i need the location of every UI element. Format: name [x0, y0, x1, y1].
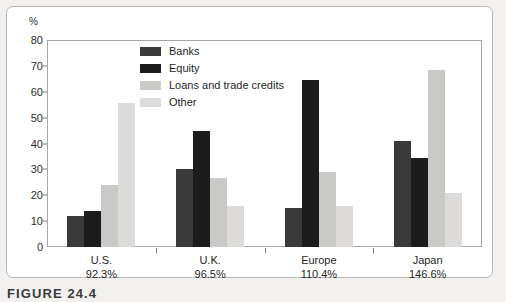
figure-page: % 01020304050607080 U.S.92.3%U.K.96.5%Eu…	[0, 0, 506, 302]
legend-swatch	[140, 81, 161, 90]
x-axis-group-label: U.K.96.5%	[156, 253, 265, 281]
x-axis-group-value: 146.6%	[373, 267, 482, 281]
bar-us-other	[118, 103, 135, 247]
legend-label: Banks	[169, 45, 200, 57]
legend-item: Banks	[140, 44, 320, 58]
legend-label: Loans and trade credits	[169, 79, 284, 91]
x-axis-group-value: 92.3%	[47, 267, 156, 281]
bar-europe-other	[336, 206, 353, 247]
bar-us-banks	[67, 216, 84, 247]
bar-japan-banks	[394, 141, 411, 247]
legend-item: Loans and trade credits	[140, 78, 320, 92]
bar-uk-banks	[176, 169, 193, 247]
bar-japan-loans	[428, 70, 445, 247]
bar-us-equity	[84, 211, 101, 247]
y-axis-tick-label: 20	[9, 189, 43, 201]
legend-swatch	[140, 98, 161, 107]
y-axis-tick-label: 30	[9, 163, 43, 175]
y-axis-tick-label: 50	[9, 112, 43, 124]
legend-item: Equity	[140, 61, 320, 75]
y-axis-unit-label: %	[29, 16, 38, 27]
legend-label: Other	[169, 96, 197, 108]
bar-europe-banks	[285, 208, 302, 247]
legend-item: Other	[140, 95, 320, 109]
x-axis-group-label: Japan146.6%	[373, 253, 482, 281]
figure-panel: % 01020304050607080 U.S.92.3%U.K.96.5%Eu…	[6, 6, 493, 278]
x-axis-group-name: Japan	[373, 253, 482, 267]
x-axis-group-label: U.S.92.3%	[47, 253, 156, 281]
x-axis-group-name: U.S.	[47, 253, 156, 267]
chart-legend: BanksEquityLoans and trade creditsOther	[140, 44, 320, 112]
bar-uk-loans	[210, 178, 227, 247]
x-axis-group-name: Europe	[265, 253, 374, 267]
x-axis-group-label: Europe110.4%	[265, 253, 374, 281]
legend-swatch	[140, 64, 161, 73]
bar-us-loans	[101, 185, 118, 247]
bar-uk-equity	[193, 131, 210, 247]
bar-europe-loans	[319, 172, 336, 247]
figure-caption: FIGURE 24.4	[7, 286, 97, 301]
y-axis-tick-label: 10	[9, 215, 43, 227]
y-axis: 01020304050607080	[7, 34, 43, 247]
y-axis-tick-label: 70	[9, 60, 43, 72]
y-axis-tick-label: 80	[9, 34, 43, 46]
bar-japan-equity	[411, 158, 428, 247]
y-axis-tick-label: 60	[9, 86, 43, 98]
y-axis-tick-label: 40	[9, 138, 43, 150]
y-axis-tick-label: 0	[9, 241, 43, 253]
x-axis-group-value: 110.4%	[265, 267, 374, 281]
bar-japan-other	[445, 193, 462, 247]
legend-label: Equity	[169, 62, 200, 74]
x-axis-group-name: U.K.	[156, 253, 265, 267]
x-axis-group-value: 96.5%	[156, 267, 265, 281]
bar-uk-other	[227, 206, 244, 247]
legend-swatch	[140, 47, 161, 56]
